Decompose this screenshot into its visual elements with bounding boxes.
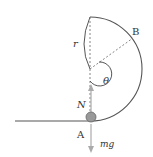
radius-edge-curve	[84, 17, 90, 69]
physics-diagram: r B θ N A mg	[0, 0, 153, 157]
normal-force-arrowhead-icon	[88, 84, 94, 91]
radius-label: r	[73, 38, 79, 49]
normal-force-label: N	[76, 99, 87, 110]
weight-label: mg	[100, 139, 115, 149]
radius-to-b-dashed	[90, 38, 133, 69]
point-a-label: A	[76, 129, 85, 140]
weight-arrowhead-icon	[88, 146, 94, 153]
ball	[86, 112, 96, 122]
point-b-label: B	[132, 26, 139, 37]
angle-label: θ	[103, 75, 109, 86]
